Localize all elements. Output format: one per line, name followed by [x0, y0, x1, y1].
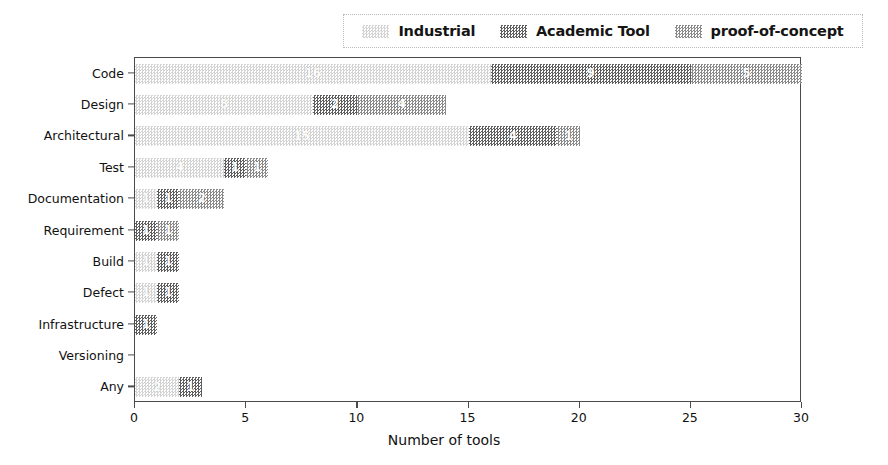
bar-segment: 1 — [179, 377, 201, 397]
x-tick-label: 25 — [682, 410, 698, 425]
y-tick-label-documentation: Documentation — [28, 191, 124, 206]
x-tick-mark — [245, 402, 246, 408]
y-tick-mark — [128, 354, 134, 355]
bar-segment: 4 — [135, 158, 224, 178]
bar-value-label: 15 — [294, 131, 310, 143]
bar-value-label: 2 — [153, 382, 161, 394]
y-tick-mark — [128, 135, 134, 136]
bar-segment: 1 — [157, 221, 179, 241]
legend-swatch-icon — [500, 25, 527, 38]
x-tick-label: 0 — [130, 410, 138, 425]
y-tick-mark — [128, 229, 134, 230]
bar-value-label: 1 — [565, 131, 573, 143]
y-tick-label-design: Design — [81, 97, 124, 112]
bar-value-label: 1 — [253, 162, 261, 174]
bar-row: 1695 — [135, 64, 802, 84]
bar-segment: 5 — [691, 64, 802, 84]
bar-row: 11 — [135, 221, 179, 241]
bar-row: 1541 — [135, 126, 580, 146]
y-tick-label-any: Any — [100, 379, 124, 394]
legend-entry-industrial[interactable]: Industrial — [362, 23, 475, 39]
bars-layer: 16958241541411112111111121 — [135, 58, 800, 401]
legend-swatch-icon — [675, 25, 702, 38]
plot-area: 16958241541411112111111121 — [134, 57, 801, 402]
bar-segment: 4 — [357, 95, 446, 115]
legend-label: proof-of-concept — [711, 23, 844, 39]
x-tick-label: 20 — [571, 410, 587, 425]
bar-value-label: 4 — [398, 99, 406, 111]
y-tick-label-requirement: Requirement — [44, 222, 124, 237]
bar-segment: 1 — [135, 252, 157, 272]
y-tick-label-infrastructure: Infrastructure — [38, 316, 124, 331]
y-tick-label-build: Build — [93, 253, 124, 268]
bar-value-label: 4 — [509, 131, 517, 143]
bar-value-label: 1 — [142, 256, 150, 268]
legend-label: Academic Tool — [536, 23, 650, 39]
legend-label: Industrial — [398, 23, 475, 39]
y-tick-label-defect: Defect — [83, 285, 124, 300]
legend-entry-proof-of-concept[interactable]: proof-of-concept — [675, 23, 844, 39]
legend-entry-academic-tool[interactable]: Academic Tool — [500, 23, 650, 39]
bar-row: 112 — [135, 189, 224, 209]
bar-segment: 16 — [135, 64, 491, 84]
y-tick-mark — [128, 72, 134, 73]
y-tick-mark — [128, 260, 134, 261]
bar-value-label: 1 — [231, 162, 239, 174]
bar-value-label: 2 — [198, 193, 206, 205]
x-tick-mark — [801, 402, 802, 408]
bar-value-label: 1 — [142, 319, 150, 331]
bar-segment: 1 — [135, 221, 157, 241]
bar-segment: 1 — [157, 189, 179, 209]
bar-segment: 1 — [135, 189, 157, 209]
bar-value-label: 1 — [142, 225, 150, 237]
bar-value-label: 1 — [164, 225, 172, 237]
y-tick-mark — [128, 103, 134, 104]
bar-value-label: 1 — [187, 382, 195, 394]
bar-value-label: 1 — [142, 287, 150, 299]
bar-value-label: 8 — [220, 99, 228, 111]
bar-value-label: 1 — [164, 287, 172, 299]
x-tick-mark — [134, 402, 135, 408]
y-tick-mark — [128, 292, 134, 293]
bar-segment: 9 — [491, 64, 691, 84]
chart-legend: IndustrialAcademic Toolproof-of-concept — [343, 14, 863, 48]
y-tick-label-test: Test — [99, 159, 124, 174]
x-tick-mark — [579, 402, 580, 408]
y-tick-mark — [128, 323, 134, 324]
bar-segment: 1 — [135, 283, 157, 303]
bar-row: 11 — [135, 252, 179, 272]
x-tick-mark — [690, 402, 691, 408]
x-tick-label: 5 — [241, 410, 249, 425]
bar-value-label: 16 — [305, 68, 321, 80]
y-tick-label-versioning: Versioning — [59, 347, 124, 362]
bar-segment: 1 — [246, 158, 268, 178]
legend-swatch-icon — [362, 25, 389, 38]
bar-value-label: 9 — [587, 68, 595, 80]
bar-segment: 1 — [135, 315, 157, 335]
y-tick-mark — [128, 386, 134, 387]
bar-row: 11 — [135, 283, 179, 303]
x-tick-label: 15 — [460, 410, 476, 425]
bar-value-label: 4 — [175, 162, 183, 174]
bar-row: 1 — [135, 315, 157, 335]
bar-value-label: 1 — [164, 193, 172, 205]
y-tick-label-code: Code — [92, 65, 124, 80]
bar-value-label: 2 — [331, 99, 339, 111]
bar-segment: 4 — [469, 126, 558, 146]
y-tick-mark — [128, 166, 134, 167]
bar-segment: 1 — [157, 283, 179, 303]
bar-segment: 2 — [135, 377, 179, 397]
x-tick-label: 30 — [793, 410, 809, 425]
x-axis-title: Number of tools — [0, 432, 888, 448]
bar-segment: 2 — [313, 95, 357, 115]
x-tick-label: 10 — [348, 410, 364, 425]
bar-segment: 2 — [179, 189, 223, 209]
x-tick-mark — [468, 402, 469, 408]
bar-row: 21 — [135, 377, 202, 397]
bar-segment: 1 — [557, 126, 579, 146]
bar-segment: 15 — [135, 126, 469, 146]
bar-value-label: 5 — [742, 68, 750, 80]
x-tick-mark — [356, 402, 357, 408]
y-tick-label-architectural: Architectural — [44, 128, 124, 143]
bar-segment: 8 — [135, 95, 313, 115]
